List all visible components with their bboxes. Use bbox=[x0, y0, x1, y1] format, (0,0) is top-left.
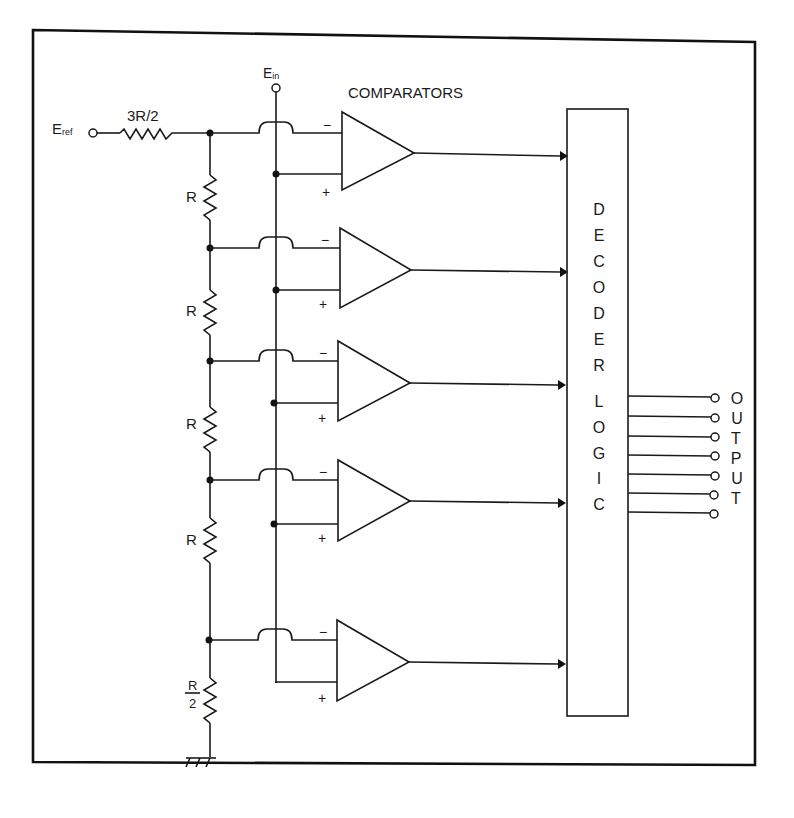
resistor-r4 bbox=[204, 518, 216, 563]
comparator-1: − + bbox=[207, 112, 415, 200]
ein-label: Ein bbox=[263, 65, 279, 81]
output-lines bbox=[628, 394, 719, 518]
svg-text:2: 2 bbox=[189, 696, 196, 711]
output-label: O U T P U T bbox=[731, 390, 744, 507]
comparators-label: COMPARATORS bbox=[348, 84, 463, 101]
resistor-r-half bbox=[204, 678, 216, 723]
resistor-3r2-label: 3R/2 bbox=[127, 107, 159, 124]
svg-text:D: D bbox=[593, 201, 605, 218]
svg-text:C: C bbox=[593, 496, 605, 513]
svg-text:+: + bbox=[318, 690, 326, 706]
flash-adc-diagram: Eref 3R/2 R R R R R bbox=[0, 0, 794, 818]
comparator-3: − + bbox=[207, 341, 411, 426]
svg-text:−: − bbox=[321, 232, 329, 248]
resistor-r3-label: R bbox=[186, 415, 197, 432]
resistor-r1 bbox=[204, 175, 216, 220]
eref-terminal: Eref bbox=[52, 120, 120, 137]
svg-text:P: P bbox=[731, 450, 742, 467]
svg-text:+: + bbox=[318, 530, 326, 546]
svg-text:O: O bbox=[731, 390, 743, 407]
svg-text:−: − bbox=[319, 624, 327, 640]
resistor-3r2: 3R/2 bbox=[120, 107, 210, 139]
svg-text:O: O bbox=[593, 279, 605, 296]
resistor-r3 bbox=[204, 407, 216, 452]
svg-text:L: L bbox=[595, 393, 604, 410]
svg-text:U: U bbox=[731, 410, 743, 427]
svg-text:I: I bbox=[597, 470, 601, 487]
svg-text:−: − bbox=[319, 464, 327, 480]
ein-terminal: Ein bbox=[263, 65, 280, 683]
svg-text:+: + bbox=[318, 410, 326, 426]
svg-text:E: E bbox=[594, 331, 605, 348]
resistor-r4-label: R bbox=[186, 531, 197, 548]
comparator-4: − + bbox=[207, 460, 411, 546]
resistor-r2-label: R bbox=[186, 302, 197, 319]
svg-text:C: C bbox=[593, 253, 605, 270]
svg-text:−: − bbox=[319, 345, 327, 361]
decoder-logic-block: D E C O D E R L O G I C bbox=[567, 109, 628, 716]
svg-text:T: T bbox=[731, 430, 741, 447]
eref-label: Eref bbox=[52, 120, 73, 137]
resistor-ladder: R R R R R 2 bbox=[185, 133, 216, 767]
svg-text:+: + bbox=[322, 184, 330, 200]
resistor-r-half-label: R 2 bbox=[185, 678, 200, 711]
svg-text:G: G bbox=[593, 445, 605, 462]
svg-text:+: + bbox=[319, 296, 327, 312]
svg-text:O: O bbox=[593, 419, 605, 436]
svg-text:U: U bbox=[731, 470, 743, 487]
svg-text:R: R bbox=[593, 357, 605, 374]
svg-text:E: E bbox=[594, 227, 605, 244]
resistor-r2 bbox=[204, 290, 216, 335]
resistor-r1-label: R bbox=[186, 188, 197, 205]
svg-text:R: R bbox=[188, 678, 197, 693]
svg-text:D: D bbox=[593, 305, 605, 322]
comparator-outputs bbox=[409, 151, 568, 669]
comparator-5: − + bbox=[206, 620, 410, 706]
comparator-2: − + bbox=[207, 228, 412, 312]
svg-text:−: − bbox=[323, 117, 331, 133]
svg-text:T: T bbox=[731, 490, 741, 507]
